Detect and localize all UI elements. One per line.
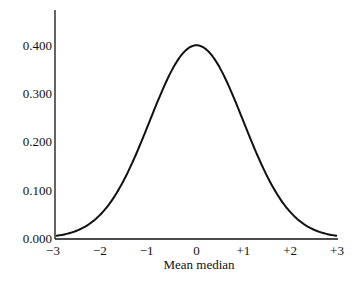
x-axis-ticks: −3−2−10+1+2+3 (46, 243, 344, 258)
x-axis-label: Mean median (163, 257, 235, 272)
x-tick-label: −2 (93, 243, 107, 258)
chart: 0.0000.1000.2000.3000.400 −3−2−10+1+2+3 … (0, 0, 364, 282)
x-tick-label: 0 (193, 243, 200, 258)
y-axis-ticks: 0.0000.1000.2000.3000.400 (23, 38, 52, 246)
normal-curve (56, 45, 337, 236)
x-tick-label: +3 (330, 243, 344, 258)
y-tick-label: 0.100 (23, 183, 52, 198)
x-tick-label: −3 (46, 243, 60, 258)
y-tick-label: 0.300 (23, 86, 52, 101)
x-tick-label: −1 (140, 243, 154, 258)
x-tick-label: +1 (236, 243, 250, 258)
y-tick-label: 0.200 (23, 134, 52, 149)
y-tick-label: 0.400 (23, 38, 52, 53)
x-tick-label: +2 (283, 243, 297, 258)
